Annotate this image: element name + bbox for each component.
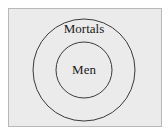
- men-label: Men: [72, 62, 96, 78]
- mortals-label: Mortals: [64, 21, 104, 37]
